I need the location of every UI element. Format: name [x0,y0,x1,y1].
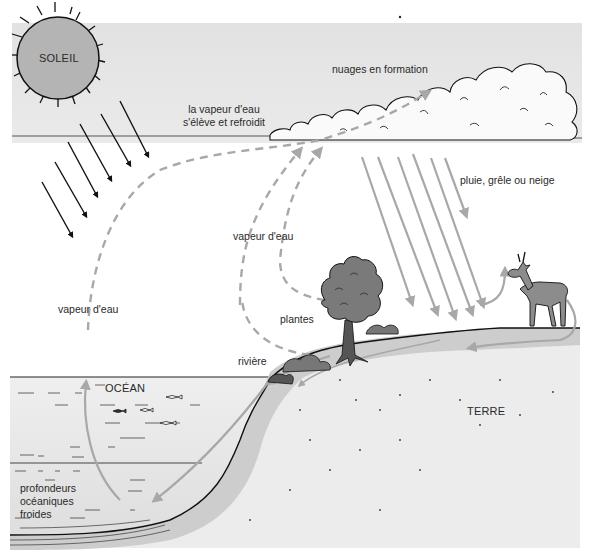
label-river: rivière [238,355,267,368]
deer-icon [508,252,568,326]
label-precipitation: pluie, grêle ou neige [460,174,555,187]
label-deep-ocean-line-3: froides [20,508,76,521]
label-plants: plantes [280,313,314,326]
diagram-canvas [0,0,590,559]
water-cycle-diagram: SOLEIL la vapeur d'eau s'élève et refroi… [0,0,590,559]
label-deep-ocean-line-1: profondeurs [20,482,76,495]
label-clouds: nuages en formation [332,63,428,76]
label-vapor-plants: vapeur d'eau [233,230,293,243]
label-vapor-rises: la vapeur d'eau s'élève et refroidit [170,103,278,129]
label-land: TERRE [467,405,505,418]
label-ocean: OCÉAN [105,382,145,395]
label-deep-ocean: profondeurs océaniques froides [20,482,76,521]
label-sun: SOLEIL [39,52,79,65]
label-vapor-ocean: vapeur d'eau [58,303,118,316]
label-vapor-rises-line-2: s'élève et refroidit [170,116,278,129]
label-vapor-rises-line-1: la vapeur d'eau [170,103,278,116]
label-deep-ocean-line-2: océaniques [20,495,76,508]
